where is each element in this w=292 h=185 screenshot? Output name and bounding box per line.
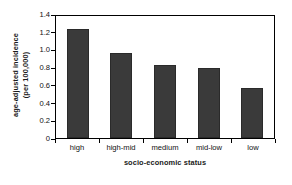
bar xyxy=(154,65,176,138)
y-axis-tick-label: 1.2 xyxy=(0,28,55,38)
y-axis-tick-label: 0.8 xyxy=(0,63,55,73)
y-axis-tick-label: 0.4 xyxy=(0,99,55,109)
bars-container xyxy=(56,16,274,138)
bar-slot xyxy=(187,16,231,138)
x-axis-tick-label: low xyxy=(231,143,275,153)
plot-area xyxy=(55,15,275,139)
y-axis-tick-label: 0.2 xyxy=(0,116,55,126)
y-axis-tick-label: 0.6 xyxy=(0,81,55,91)
bar-slot xyxy=(230,16,274,138)
y-axis-tick-label: 1.0 xyxy=(0,45,55,55)
y-axis-tick-label: 1.4 xyxy=(0,10,55,20)
x-axis-labels: highhigh-midmediummid-lowlow xyxy=(55,143,275,153)
x-axis-tick-mark xyxy=(275,139,276,143)
bar xyxy=(241,88,263,138)
x-axis-tick-label: medium xyxy=(143,143,187,153)
bar-slot xyxy=(56,16,100,138)
y-axis-tick-label: 0 xyxy=(0,134,55,144)
bar xyxy=(110,53,132,138)
bar-slot xyxy=(143,16,187,138)
x-axis-tick-label: high-mid xyxy=(99,143,143,153)
x-axis-tick-label: high xyxy=(55,143,99,153)
bar-slot xyxy=(100,16,144,138)
x-axis-tick-label: mid-low xyxy=(187,143,231,153)
bar-chart: age-adjusted incidence (per 100,000) 00.… xyxy=(0,0,292,185)
x-axis-title: socio-economic status xyxy=(55,158,275,167)
y-axis-title: age-adjusted incidence (per 100,000) xyxy=(0,0,40,150)
bar xyxy=(67,29,89,138)
bar xyxy=(198,68,220,138)
